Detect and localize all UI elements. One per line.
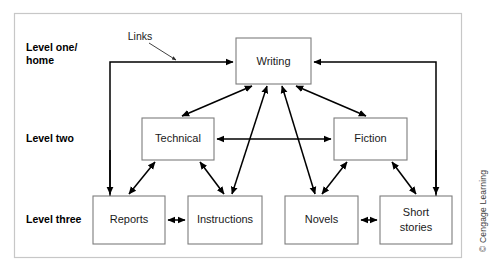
node-reports-label: Reports bbox=[110, 213, 149, 225]
node-novels[interactable]: Novels bbox=[285, 196, 358, 244]
node-novels-label: Novels bbox=[305, 213, 339, 225]
node-instructions[interactable]: Instructions bbox=[188, 196, 262, 244]
node-technical-label: Technical bbox=[155, 132, 201, 144]
copyright-credit: © Cengage Learning bbox=[478, 170, 488, 252]
links-annotation-label: Links bbox=[128, 30, 153, 42]
figure-root: Level one/ home Level two Level three Li… bbox=[0, 0, 491, 270]
node-reports[interactable]: Reports bbox=[93, 196, 165, 244]
node-fiction[interactable]: Fiction bbox=[334, 118, 407, 160]
node-instructions-label: Instructions bbox=[197, 213, 254, 225]
site-map-diagram: Level one/ home Level two Level three Li… bbox=[0, 0, 491, 270]
level-label-level-three: Level three bbox=[26, 213, 82, 225]
node-shortstories-label-line2: stories bbox=[400, 221, 433, 233]
level-label-level-two: Level two bbox=[26, 132, 74, 144]
node-writing-label: Writing bbox=[256, 55, 290, 67]
node-technical[interactable]: Technical bbox=[142, 118, 214, 160]
node-writing[interactable]: Writing bbox=[236, 38, 311, 84]
node-fiction-label: Fiction bbox=[354, 132, 386, 144]
level-label-level-one: Level one/ bbox=[26, 41, 77, 53]
level-label-level-one-line2: home bbox=[26, 54, 54, 66]
node-shortstories[interactable]: Short stories bbox=[380, 196, 452, 244]
node-shortstories-label-line1: Short bbox=[403, 206, 429, 218]
